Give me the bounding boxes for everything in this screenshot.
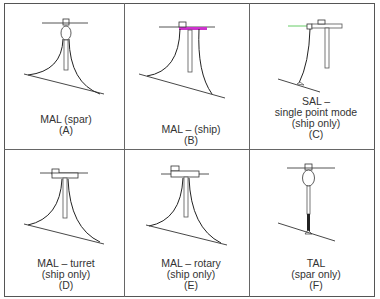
caption-line: (E) [129, 280, 253, 291]
panel-d: MAL – turret (ship only) (D) [4, 150, 128, 297]
caption-line: (D) [4, 280, 128, 291]
panel-caption: MAL – (ship) (B) [129, 124, 253, 146]
caption-line: (B) [129, 135, 253, 146]
panel-caption: MAL (spar) (A) [4, 114, 128, 136]
panel-c: SAL – single point mode (ship only) (C) [254, 3, 378, 150]
caption-line: (C) [254, 129, 378, 140]
panel-caption: TAL (spar only) (F) [254, 258, 378, 291]
panel-e: MAL – rotary (ship only) (E) [129, 150, 253, 297]
caption-line: (F) [254, 280, 378, 291]
panel-caption: MAL – rotary (ship only) (E) [129, 258, 253, 291]
panel-f: TAL (spar only) (F) [254, 150, 378, 297]
panel-caption: MAL – turret (ship only) (D) [4, 258, 128, 291]
panel-a: MAL (spar) (A) [4, 3, 128, 150]
panel-caption: SAL – single point mode (ship only) (C) [254, 96, 378, 140]
panel-b: MAL – (ship) (B) [129, 3, 253, 150]
caption-line: (A) [4, 125, 128, 136]
